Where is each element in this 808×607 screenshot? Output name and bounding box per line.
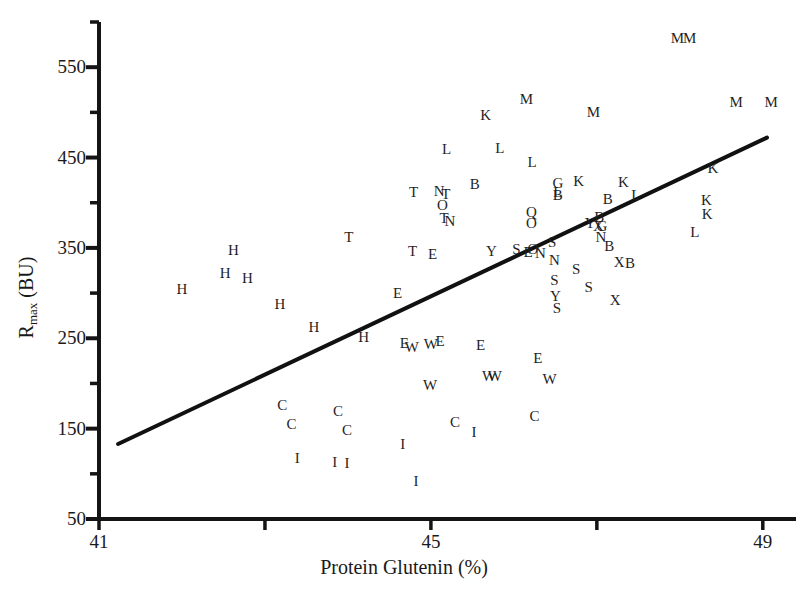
data-point-x: X: [610, 293, 621, 308]
data-point-l: L: [495, 140, 504, 155]
data-point-h: H: [242, 270, 253, 285]
data-point-b: B: [604, 239, 614, 254]
y-axis-title: Rmax (BU): [15, 208, 38, 388]
data-point-t: T: [408, 243, 417, 258]
data-point-w: W: [542, 371, 556, 386]
data-point-h: H: [220, 266, 231, 281]
scatter-chart: 50150250350450550 414549 HHHHHHHEEEEEEEW…: [0, 0, 808, 607]
y-tick-label: 150: [52, 418, 86, 440]
data-point-m: M: [587, 105, 600, 120]
data-point-m: M: [671, 31, 684, 46]
data-point-k: K: [480, 108, 491, 123]
x-tick-label: 45: [401, 531, 461, 553]
data-point-c: C: [286, 417, 296, 432]
data-point-l: L: [631, 188, 640, 203]
data-point-m: M: [683, 31, 696, 46]
y-axis-title-wrap: Rmax (BU): [2, 200, 42, 400]
data-point-w: W: [423, 378, 437, 393]
data-point-h: H: [308, 320, 319, 335]
plot-canvas: [0, 0, 808, 607]
data-point-q: Q: [526, 204, 537, 219]
y-tick-label: 450: [52, 147, 86, 169]
y-tick-label: 350: [52, 237, 86, 259]
data-point-b: B: [470, 176, 480, 191]
y-tick-label: 250: [52, 327, 86, 349]
data-point-i: I: [295, 450, 300, 465]
data-point-b: B: [625, 256, 635, 271]
data-point-t: T: [344, 230, 353, 245]
data-point-b: B: [603, 192, 613, 207]
data-point-c: C: [277, 398, 287, 413]
data-point-i: I: [332, 455, 337, 470]
data-point-m: M: [730, 94, 743, 109]
data-point-c: C: [450, 415, 460, 430]
y-tick-label: 50: [52, 508, 86, 530]
data-point-k: K: [573, 174, 584, 189]
y-tick-label: 550: [52, 56, 86, 78]
data-point-i: I: [472, 425, 477, 440]
data-point-s: S: [553, 301, 561, 316]
data-point-o: O: [437, 197, 448, 212]
data-point-w: W: [405, 340, 419, 355]
data-point-n: N: [549, 252, 560, 267]
data-point-x: X: [614, 255, 625, 270]
data-point-w: W: [424, 336, 438, 351]
data-point-y: Y: [486, 243, 497, 258]
data-point-i: I: [400, 436, 405, 451]
data-point-k: K: [618, 174, 629, 189]
x-tick-label: 41: [69, 531, 129, 553]
data-point-c: C: [342, 423, 352, 438]
data-point-h: H: [228, 242, 239, 257]
data-point-n: N: [445, 213, 456, 228]
data-point-h: H: [274, 296, 285, 311]
data-point-e: E: [476, 337, 485, 352]
x-tick-label: 49: [733, 531, 793, 553]
y-axis-title-base: R: [15, 325, 37, 338]
data-point-n: N: [535, 246, 546, 261]
data-point-l: L: [528, 155, 537, 170]
data-point-s: S: [512, 241, 520, 256]
data-point-w: W: [488, 369, 502, 384]
data-point-l: L: [690, 224, 699, 239]
data-point-m: M: [520, 91, 533, 106]
data-point-s: S: [550, 272, 558, 287]
data-point-k: K: [708, 161, 719, 176]
data-point-e: E: [533, 351, 542, 366]
data-point-s: S: [548, 234, 556, 249]
data-point-i: I: [345, 455, 350, 470]
y-axis-title-sub: max: [25, 303, 40, 325]
data-point-s: S: [584, 279, 592, 294]
data-point-e: E: [393, 286, 402, 301]
data-point-h: H: [358, 330, 369, 345]
data-point-i: I: [413, 474, 418, 489]
data-point-m: M: [764, 94, 777, 109]
y-axis-title-unit: (BU): [15, 257, 37, 303]
data-point-e: E: [428, 247, 437, 262]
data-point-l: L: [553, 184, 562, 199]
data-point-s: S: [572, 261, 580, 276]
axis-lines: [97, 22, 796, 519]
data-point-l: L: [442, 142, 451, 157]
data-point-t: T: [409, 184, 418, 199]
data-point-c: C: [333, 403, 343, 418]
data-point-k: K: [702, 206, 713, 221]
x-axis-title: Protein Glutenin (%): [0, 556, 808, 579]
data-point-c: C: [530, 408, 540, 423]
data-point-h: H: [177, 281, 188, 296]
